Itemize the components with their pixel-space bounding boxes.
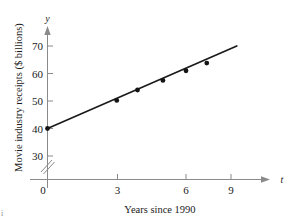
data-point [135, 88, 140, 93]
data-point [114, 98, 119, 103]
figure-corner-mark: i [1, 209, 3, 218]
y-tick-label-30: 30 [32, 150, 44, 162]
x-tick-label-6: 6 [183, 184, 189, 196]
x-axis-variable-label: t [281, 174, 284, 185]
y-tick-label-60: 60 [32, 68, 44, 80]
y-axis-variable-label: y [44, 13, 50, 24]
x-tick-label-0: 0 [40, 184, 46, 196]
y-tick-label-50: 50 [32, 95, 44, 107]
data-points-group [45, 61, 209, 131]
x-tick-label-9: 9 [228, 184, 234, 196]
data-point [161, 78, 166, 83]
data-point [184, 68, 189, 73]
y-tick-label-40: 40 [32, 123, 44, 135]
data-point [204, 61, 209, 66]
y-tick-label-70: 70 [32, 40, 44, 52]
plot-area: 70 60 50 40 30 0 3 6 9 y t Years since 1… [0, 0, 303, 220]
x-axis-title: Years since 1990 [124, 204, 195, 215]
data-point [45, 126, 50, 131]
x-tick-label-3: 3 [115, 184, 121, 196]
chart-figure: Movie industry receipts ($ billions) 70 … [0, 0, 303, 220]
x-axis-arrow-icon [261, 176, 270, 182]
y-axis-arrow-icon [44, 26, 50, 35]
trendline [48, 46, 237, 129]
